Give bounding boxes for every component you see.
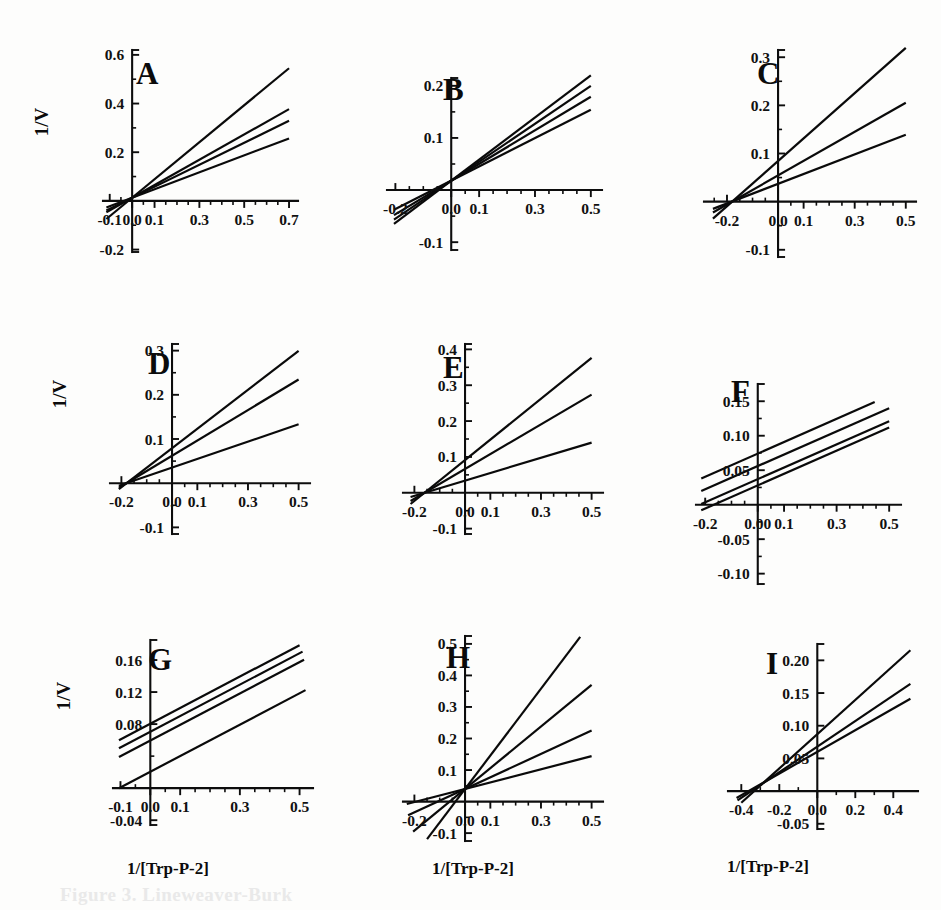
- y-tick-label: 0.20: [782, 652, 809, 669]
- data-line-b-line-1: [394, 75, 591, 223]
- y-tick-label: 0.1: [145, 431, 164, 448]
- panel-a: -0.10.00.10.30.50.7-0.20.20.40.6A1/V: [18, 34, 318, 319]
- y-tick-label: 0.10: [723, 427, 750, 444]
- x-tick-label: 0.5: [581, 200, 601, 217]
- y-tick-label: -0.05: [777, 815, 810, 832]
- panel-letter-a: A: [136, 56, 159, 91]
- panel-letter-g: G: [148, 642, 172, 677]
- data-line-i-line-3: [737, 699, 911, 798]
- data-line-b-line-3: [394, 97, 591, 215]
- y-tick-label: 0.05: [782, 750, 809, 767]
- x-tick-label: 0.0: [455, 812, 475, 829]
- y-tick-label: 0.05: [723, 462, 750, 479]
- panel-d: -0.20.00.10.30.5-0.10.10.20.3D1/V: [18, 330, 318, 610]
- x-tick-label: -0.2: [402, 812, 427, 829]
- y-tick-label: -0.1: [432, 520, 457, 537]
- data-line-b-line-2: [394, 86, 591, 220]
- x-tick-label: 0.0: [141, 798, 161, 815]
- y-tick-label: -0.1: [139, 519, 164, 536]
- x-tick-label: 0.0: [808, 801, 828, 818]
- x-tick-label: 0.4: [884, 801, 904, 818]
- x-axis-title-h: 1/[Trp-P-2]: [432, 859, 514, 878]
- x-tick-label: 0.1: [774, 515, 793, 532]
- y-tick-label: 0.10: [782, 717, 809, 734]
- x-tick-label: -0.4: [729, 801, 754, 818]
- panel-b: -0.20.00.10.30.5-0.10.10.2B: [325, 34, 625, 319]
- y-axis-title-d: 1/V: [49, 379, 70, 408]
- x-tick-label: 0.1: [469, 200, 488, 217]
- y-axis-title-g: 1/V: [53, 681, 74, 710]
- y-tick-label: 0.4: [105, 95, 125, 112]
- data-line-c-line-1: [713, 48, 906, 219]
- y-tick-label: -0.1: [746, 241, 771, 258]
- panel-letter-i: I: [766, 646, 778, 681]
- x-tick-label: 0.3: [845, 212, 865, 229]
- x-tick-label: -0.2: [383, 200, 408, 217]
- data-line-d-line-1: [119, 351, 299, 489]
- x-tick-label: -0.2: [715, 212, 740, 229]
- x-tick-label: -0.1: [97, 211, 122, 228]
- y-tick-label: 0.2: [438, 730, 458, 747]
- panel-letter-h: H: [446, 640, 470, 675]
- y-tick-label: -0.04: [110, 812, 143, 829]
- x-tick-label: 0.5: [582, 503, 602, 520]
- x-tick-label: -0.2: [402, 503, 427, 520]
- data-lines-f: [701, 402, 889, 510]
- y-tick-label: 0.1: [751, 145, 770, 162]
- x-tick-label: -0.2: [109, 493, 134, 510]
- y-tick-label: 0.2: [438, 413, 458, 430]
- data-line-g-line-4: [119, 690, 306, 788]
- y-tick-label: -0.1: [432, 825, 457, 842]
- y-tick-label: 0.2: [105, 144, 125, 161]
- x-tick-label: 0.1: [188, 493, 207, 510]
- x-tick-label: 0.7: [279, 211, 299, 228]
- x-tick-label: 0.3: [230, 798, 250, 815]
- x-tick-label: 0.1: [481, 812, 500, 829]
- y-tick-label: 0.1: [438, 762, 457, 779]
- y-tick-label: -0.1: [419, 234, 444, 251]
- panel-g: -0.10.00.10.30.5-0.040.080.120.16G1/V1/[…: [18, 622, 318, 907]
- x-tick-label: 0.2: [846, 801, 866, 818]
- y-tick-label: -0.10: [717, 565, 750, 582]
- data-line-c-line-2: [713, 103, 906, 213]
- panel-h: -0.20.00.10.30.5-0.10.10.20.30.40.5H1/[T…: [318, 622, 618, 907]
- x-tick-label: 0.5: [235, 211, 255, 228]
- x-tick-label: 0.3: [531, 503, 551, 520]
- data-line-h-line-4: [407, 756, 592, 804]
- x-tick-label: 0.3: [531, 812, 551, 829]
- y-tick-label: 0.2: [751, 97, 771, 114]
- panel-letter-e: E: [443, 350, 464, 385]
- data-lines-a: [106, 68, 289, 219]
- x-tick-label: 0.1: [481, 503, 500, 520]
- x-tick-label: 0.00: [744, 515, 771, 532]
- y-tick-label: 0.16: [115, 652, 142, 669]
- y-tick-label: 0.2: [424, 77, 444, 94]
- x-tick-label: 0.0: [162, 493, 182, 510]
- x-tick-label: 0.3: [827, 515, 847, 532]
- y-tick-label: 0.6: [105, 46, 125, 63]
- panel-c: -0.20.00.10.30.5-0.10.10.20.3C: [632, 34, 937, 319]
- x-tick-label: 0.5: [879, 515, 899, 532]
- data-line-b-line-4: [394, 110, 591, 210]
- x-tick-label: 0.0: [442, 200, 462, 217]
- panel-letter-d: D: [148, 346, 170, 381]
- x-tick-label: 0.1: [794, 212, 813, 229]
- panel-letter-c: C: [757, 56, 779, 91]
- panel-i: -0.4-0.20.00.20.4-0.050.050.100.150.20I1…: [618, 622, 938, 907]
- panel-letter-f: F: [731, 374, 750, 409]
- x-tick-label: 0.5: [289, 493, 309, 510]
- y-tick-label: 0.08: [115, 716, 142, 733]
- figure-caption-partial: Figure 3. Lineweaver-Burk: [60, 884, 293, 906]
- x-tick-label: -0.2: [693, 515, 718, 532]
- y-tick-label: -0.2: [100, 241, 125, 258]
- data-line-g-line-2: [119, 652, 303, 749]
- lineweaver-burk-figure: -0.10.00.10.30.50.7-0.20.20.40.6A1/V-0.2…: [0, 0, 941, 910]
- x-axis-title-i: 1/[Trp-P-2]: [727, 857, 809, 876]
- y-tick-label: 0.2: [145, 386, 165, 403]
- x-tick-label: 0.1: [145, 211, 164, 228]
- data-lines-b: [394, 75, 591, 223]
- panel-letter-b: B: [443, 72, 464, 107]
- data-lines-c: [713, 48, 906, 219]
- panel-e: -0.20.00.10.30.5-0.10.10.20.30.4E: [318, 330, 618, 610]
- data-line-g-line-1: [119, 645, 300, 740]
